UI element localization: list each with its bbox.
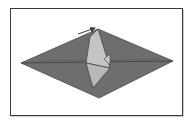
- origami-diagram: [0, 0, 193, 127]
